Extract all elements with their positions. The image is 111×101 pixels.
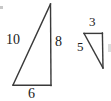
small-triangle-hypotenuse-label: 5 [77, 40, 84, 53]
geometry-figure-canvas: 10 8 6 3 5 [0, 0, 111, 101]
large-triangle-hypotenuse-label: 10 [6, 33, 20, 47]
right-edge-artifact [108, 44, 111, 52]
left-edge-artifact [0, 6, 3, 9]
small-triangle-vertical-leg [102, 33, 103, 68]
large-triangle-vertical-leg [51, 4, 52, 86]
small-triangle-horizontal-leg-label: 3 [89, 15, 96, 28]
small-right-triangle [84, 33, 103, 68]
large-triangle-vertical-leg-label: 8 [55, 35, 62, 49]
small-triangle-hypotenuse [84, 33, 103, 68]
large-triangle-horizontal-leg-label: 6 [28, 87, 35, 101]
